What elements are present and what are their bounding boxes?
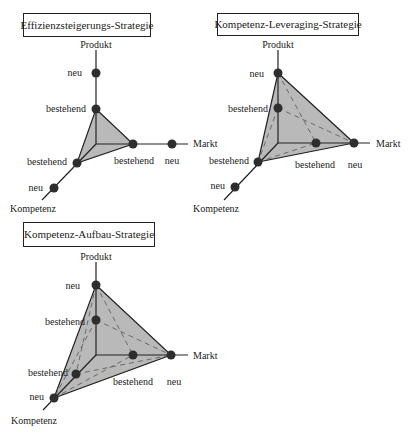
diagram-efficiency: Effizienzsteigerungs-Strategie Produkt n…	[10, 14, 218, 215]
market-new-dot	[350, 139, 359, 148]
competence-new-dot	[50, 394, 59, 403]
competence-existing-label: bestehend	[27, 156, 67, 167]
product-new-dot	[92, 281, 101, 290]
competence-new-label: neu	[29, 182, 43, 193]
market-label: Markt	[376, 138, 401, 149]
competence-existing-dot	[72, 370, 81, 379]
competence-new-dot	[50, 184, 59, 193]
competence-axis	[224, 143, 278, 200]
product-new-dot	[92, 69, 101, 78]
product-existing-dot	[92, 105, 101, 114]
market-existing-dot	[312, 139, 321, 148]
product-existing-label: bestehend	[45, 316, 85, 327]
competence-label: Kompetenz	[193, 203, 240, 214]
market-existing-label: bestehend	[295, 159, 335, 170]
market-label: Markt	[193, 350, 218, 361]
market-new-label: neu	[348, 159, 362, 170]
competence-new-label: neu	[30, 391, 44, 402]
product-existing-dot	[274, 104, 283, 113]
diagram-competence-building: Kompetenz-Aufbau-Strategie Produkt neu b…	[11, 223, 218, 427]
diagram-title: Effizienzsteigerungs-Strategie	[21, 19, 154, 31]
market-new-label: neu	[167, 376, 181, 387]
diagram-title: Kompetenz-Aufbau-Strategie	[24, 228, 154, 240]
product-label: Produkt	[262, 39, 294, 50]
competence-label: Kompetenz	[10, 203, 57, 214]
product-existing-label: bestehend	[46, 103, 86, 114]
product-new-label: neu	[66, 280, 80, 291]
competence-axis	[42, 144, 96, 200]
product-new-label: neu	[250, 68, 264, 79]
market-existing-dot	[129, 351, 138, 360]
product-new-label: neu	[68, 67, 82, 78]
product-new-dot	[274, 69, 283, 78]
market-label: Markt	[193, 138, 218, 149]
market-existing-label: bestehend	[113, 376, 153, 387]
market-existing-dot	[129, 140, 138, 149]
market-existing-label: bestehend	[114, 155, 154, 166]
market-new-label: neu	[165, 155, 179, 166]
competence-new-label: neu	[211, 180, 225, 191]
competence-existing-dot	[254, 158, 263, 167]
diagram-title: Kompetenz-Leveraging-Strategie	[214, 18, 361, 30]
product-label: Produkt	[80, 39, 112, 50]
product-existing-dot	[92, 316, 101, 325]
market-new-dot	[167, 351, 176, 360]
competence-existing-label: bestehend	[28, 367, 68, 378]
product-label: Produkt	[80, 251, 112, 262]
market-new-dot	[168, 140, 177, 149]
competence-label: Kompetenz	[11, 415, 58, 426]
product-existing-label: bestehend	[228, 103, 268, 114]
competence-existing-dot	[73, 159, 82, 168]
competence-existing-label: bestehend	[209, 155, 249, 166]
competence-new-dot	[231, 183, 240, 192]
diagram-competence-leveraging: Kompetenz-Leveraging-Strategie Produkt n…	[193, 14, 401, 215]
strategy-diagrams: Effizienzsteigerungs-Strategie Produkt n…	[0, 0, 411, 433]
